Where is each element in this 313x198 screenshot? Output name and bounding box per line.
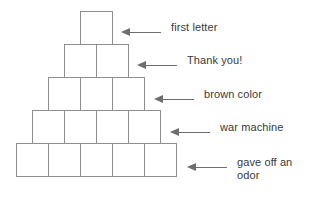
clue-label-1: first letter: [171, 21, 217, 34]
pyramid-block[interactable]: [80, 143, 113, 177]
left-arrow-icon: [154, 95, 194, 104]
pyramid-row-3: [48, 77, 145, 111]
pyramid-row-4: [32, 110, 161, 144]
pyramid-block[interactable]: [32, 110, 65, 144]
pyramid-row-1: [80, 11, 113, 45]
pyramid-row-2: [64, 44, 129, 78]
pyramid-block[interactable]: [96, 110, 129, 144]
pyramid-block[interactable]: [16, 143, 49, 177]
block-pyramid-puzzle: first letter Thank you! brown color war …: [0, 0, 313, 198]
clue-label-4: war machine: [220, 121, 283, 134]
pyramid-block[interactable]: [144, 143, 177, 177]
pyramid-block[interactable]: [128, 110, 161, 144]
pyramid-block[interactable]: [48, 143, 81, 177]
pyramid-block[interactable]: [48, 77, 81, 111]
pyramid-block[interactable]: [112, 77, 145, 111]
pyramid-block[interactable]: [112, 143, 145, 177]
pyramid-block[interactable]: [64, 44, 97, 78]
clue-label-3: brown color: [204, 88, 262, 101]
left-arrow-icon: [121, 28, 161, 37]
pyramid-block[interactable]: [80, 77, 113, 111]
left-arrow-icon: [137, 61, 177, 70]
left-arrow-icon: [187, 163, 227, 172]
pyramid-row-5: [16, 143, 177, 177]
pyramid-block[interactable]: [64, 110, 97, 144]
pyramid-block[interactable]: [80, 11, 113, 45]
clue-label-2: Thank you!: [187, 54, 242, 67]
clue-label-5: gave off an odor: [237, 156, 292, 182]
pyramid-block[interactable]: [96, 44, 129, 78]
left-arrow-icon: [170, 128, 210, 137]
